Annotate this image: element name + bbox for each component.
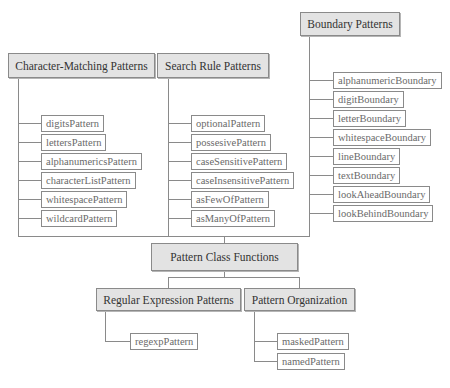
item-text-boundary: textBoundary <box>333 167 400 184</box>
item-digit-boundary: digitBoundary <box>333 91 404 108</box>
item-digits-pattern: digitsPattern <box>41 115 104 132</box>
item-masked-pattern: maskedPattern <box>277 333 349 350</box>
connector-line <box>168 123 191 124</box>
connector-line <box>309 35 310 236</box>
connector-line <box>168 218 191 219</box>
connector-line <box>105 310 106 341</box>
group-search-rule: Search Rule Patterns <box>157 53 269 78</box>
group-boundary: Boundary Patterns <box>300 12 400 36</box>
connector-line <box>168 77 169 236</box>
connector-line <box>299 277 300 288</box>
connector-line <box>309 80 333 81</box>
item-whitespace-pattern: whitespacePattern <box>41 191 127 208</box>
root-pattern-class-functions: Pattern Class Functions <box>151 243 298 271</box>
item-letter-boundary: letterBoundary <box>333 110 406 127</box>
item-line-boundary: lineBoundary <box>333 148 400 165</box>
connector-line <box>309 175 333 176</box>
connector-line <box>168 180 191 181</box>
connector-line <box>224 270 225 277</box>
connector-line <box>168 142 191 143</box>
item-wildcard-pattern: wildcardPattern <box>41 210 117 227</box>
connector-line <box>309 213 333 214</box>
connector-line <box>254 361 277 362</box>
item-look-behind-boundary: lookBehindBoundary <box>333 205 433 222</box>
connector-line <box>168 277 169 288</box>
item-as-few-of-pattern: asFewOfPattern <box>191 191 269 208</box>
item-character-list-pattern: characterListPattern <box>41 172 136 189</box>
item-case-sensitive-pattern: caseSensitivePattern <box>191 153 287 170</box>
item-possesive-pattern: possesivePattern <box>191 134 271 151</box>
connector-line <box>309 118 333 119</box>
connector-line <box>309 194 333 195</box>
item-named-pattern: namedPattern <box>277 353 345 370</box>
connector-line <box>168 161 191 162</box>
item-letters-pattern: lettersPattern <box>41 134 106 151</box>
group-organization: Pattern Organization <box>244 288 355 311</box>
group-regular-expression: Regular Expression Patterns <box>96 288 241 311</box>
group-character-matching: Character-Matching Patterns <box>8 53 155 78</box>
connector-line <box>18 199 41 200</box>
connector-line <box>254 310 255 362</box>
item-whitespace-boundary: whitespaceBoundary <box>333 129 431 146</box>
item-alphanumerics-pattern: alphanumericsPattern <box>41 153 142 170</box>
item-case-insensitive-pattern: caseInsensitivePattern <box>191 172 294 189</box>
item-regexp-pattern: regexpPattern <box>130 333 198 350</box>
connector-line <box>168 199 191 200</box>
item-look-ahead-boundary: lookAheadBoundary <box>333 186 430 203</box>
item-optional-pattern: optionalPattern <box>191 115 265 132</box>
connector-line <box>18 236 310 237</box>
connector-line <box>105 341 130 342</box>
connector-line <box>18 180 41 181</box>
item-as-many-of-pattern: asManyOfPattern <box>191 210 275 227</box>
connector-line <box>309 137 333 138</box>
connector-line <box>18 77 19 236</box>
item-alphanumeric-boundary: alphanumericBoundary <box>333 72 442 89</box>
connector-line <box>18 218 41 219</box>
connector-line <box>18 123 41 124</box>
connector-line <box>254 341 277 342</box>
connector-line <box>309 99 333 100</box>
connector-line <box>168 277 300 278</box>
connector-line <box>309 156 333 157</box>
connector-line <box>18 142 41 143</box>
connector-line <box>18 161 41 162</box>
